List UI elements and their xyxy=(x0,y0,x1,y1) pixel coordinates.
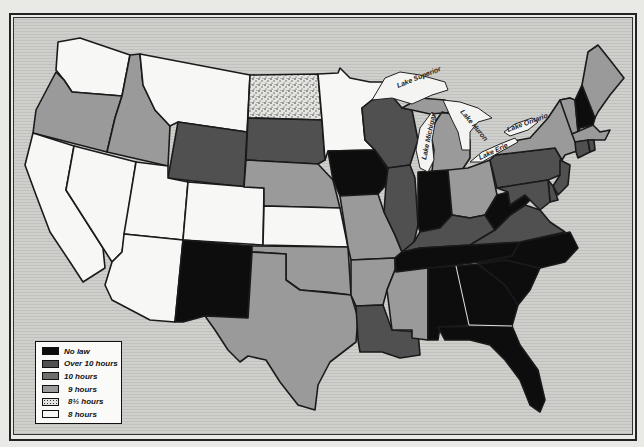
legend-item-over-10-hours: Over 10 hours xyxy=(42,358,121,371)
legend-item-8-hours: 8 hours xyxy=(42,408,121,421)
legend-swatch xyxy=(42,360,59,368)
map-legend: No law Over 10 hours 10 hours 9 hours 8½… xyxy=(35,341,122,424)
legend-label: 8 hours xyxy=(64,410,97,419)
legend-swatch xyxy=(42,372,59,380)
legend-label: 9 hours xyxy=(64,385,97,394)
legend-label: 10 hours xyxy=(64,372,97,381)
legend-item-no-law: No law xyxy=(42,345,121,358)
legend-label: Over 10 hours xyxy=(64,359,118,368)
legend-swatch xyxy=(42,385,59,393)
state-florida xyxy=(438,326,545,412)
state-colorado xyxy=(183,182,264,245)
legend-label: No law xyxy=(64,347,90,356)
legend-item-8-half-hours: 8½ hours xyxy=(42,395,121,408)
legend-swatch xyxy=(42,347,59,355)
legend-item-9-hours: 9 hours xyxy=(42,383,121,396)
state-kansas xyxy=(263,206,348,247)
state-mississippi xyxy=(387,268,428,340)
legend-swatch xyxy=(42,410,59,418)
state-north-dakota xyxy=(248,74,322,120)
state-new-mexico xyxy=(175,240,252,322)
legend-item-10-hours: 10 hours xyxy=(42,370,121,383)
legend-label: 8½ hours xyxy=(64,397,104,406)
state-rhode-island xyxy=(588,140,595,152)
state-south-dakota xyxy=(246,118,325,164)
legend-swatch xyxy=(42,398,59,406)
state-wyoming xyxy=(168,122,247,187)
